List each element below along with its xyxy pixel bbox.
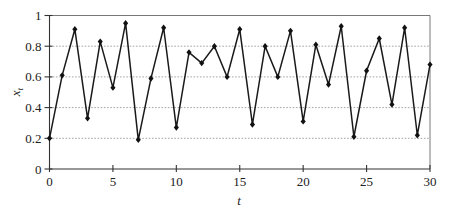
diamond-marker: [326, 81, 331, 87]
y-tick-label: 0: [35, 162, 42, 177]
diamond-marker: [136, 137, 141, 143]
diamond-marker: [389, 101, 394, 107]
x-tick-label: 30: [424, 174, 437, 189]
diamond-marker: [364, 68, 369, 74]
x-tick-label: 20: [297, 174, 310, 189]
series-line: [50, 23, 431, 140]
diamond-marker: [72, 26, 77, 32]
diamond-marker: [148, 75, 153, 81]
chart-container: 00.20.40.60.81 051015202530 t xt: [0, 0, 452, 212]
diamond-marker: [225, 74, 230, 80]
svg-text:xt: xt: [8, 87, 25, 97]
diamond-marker: [288, 28, 293, 34]
line-chart: 00.20.40.60.81 051015202530 t xt: [0, 0, 452, 212]
x-tick-label: 15: [233, 174, 246, 189]
x-tick-label: 25: [360, 174, 373, 189]
diamond-marker: [47, 135, 52, 141]
diamond-marker: [313, 41, 318, 47]
x-axis-label: t: [237, 193, 241, 208]
y-tick-label: 0.8: [25, 39, 41, 54]
diamond-marker: [339, 23, 344, 29]
diamond-marker: [110, 84, 115, 90]
plot-frame: [50, 16, 431, 170]
diamond-marker: [174, 124, 179, 130]
x-tick-label: 5: [110, 174, 117, 189]
diamond-marker: [427, 61, 432, 67]
y-axis-label: xt: [8, 87, 25, 97]
diamond-marker: [98, 38, 103, 44]
diamond-marker: [123, 20, 128, 26]
x-tick-label: 0: [46, 174, 53, 189]
diamond-marker: [377, 35, 382, 41]
gridlines: [50, 46, 431, 138]
diamond-marker: [415, 132, 420, 138]
diamond-marker: [161, 25, 166, 31]
y-axis-ticks: 00.20.40.60.81: [25, 8, 52, 177]
diamond-marker: [263, 43, 268, 49]
x-tick-label: 10: [170, 174, 183, 189]
diamond-marker: [250, 121, 255, 127]
y-tick-label: 0.2: [25, 131, 41, 146]
diamond-marker: [402, 25, 407, 31]
y-tick-label: 0.4: [25, 100, 42, 115]
diamond-marker: [60, 72, 65, 78]
diamond-marker: [85, 115, 90, 121]
diamond-marker: [237, 26, 242, 32]
series-x-t: [47, 20, 433, 143]
diamond-marker: [301, 118, 306, 124]
y-tick-label: 1: [35, 8, 42, 23]
y-axis-label-subscript: t: [15, 87, 25, 90]
diamond-marker: [351, 134, 356, 140]
y-tick-label: 0.6: [25, 69, 42, 84]
diamond-marker: [275, 74, 280, 80]
